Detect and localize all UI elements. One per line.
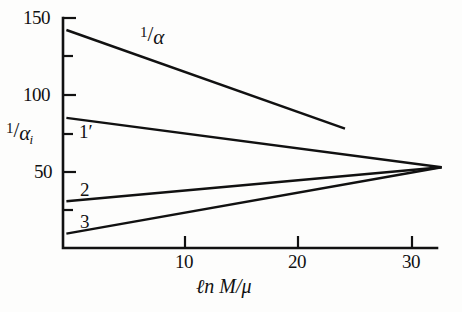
series-line-three <box>66 167 441 233</box>
chart-figure: 150 100 50 10 20 30 1/αi ℓn M/μ 1/α 1′ 2… <box>0 0 462 312</box>
y-axis-label: 1/αi <box>6 118 34 142</box>
series-label-alpha-fraction: 1/α <box>140 24 164 45</box>
series-label-alpha: 1/α <box>140 24 164 45</box>
x-tick-label-30: 30 <box>402 252 420 271</box>
series-line-one-prime <box>66 118 441 167</box>
series-line-two <box>66 167 441 201</box>
plot-canvas <box>0 0 462 312</box>
series-label-three: 3 <box>80 212 90 231</box>
x-tick-label-10: 10 <box>175 252 193 271</box>
y-tick-label-150: 150 <box>23 8 50 27</box>
x-axis-label: ℓn M/μ <box>196 276 252 296</box>
y-axis-label-numerator: 1 <box>6 120 14 136</box>
series-label-alpha-denominator: α <box>153 25 164 49</box>
y-tick-label-100: 100 <box>23 85 50 104</box>
series-line-alpha <box>66 30 345 129</box>
series-label-one-prime: 1′ <box>79 122 93 141</box>
y-axis-label-fraction: 1/α <box>6 120 30 141</box>
series-label-alpha-numerator: 1 <box>140 24 148 40</box>
y-axis-label-subscript: i <box>29 132 33 147</box>
series-label-two: 2 <box>80 180 90 199</box>
y-tick-label-50: 50 <box>34 162 52 181</box>
axis-frame <box>63 18 437 248</box>
x-tick-label-20: 20 <box>288 252 306 271</box>
x-axis-label-argument: M/μ <box>219 275 251 297</box>
x-axis-label-ln: ℓn <box>196 275 214 297</box>
